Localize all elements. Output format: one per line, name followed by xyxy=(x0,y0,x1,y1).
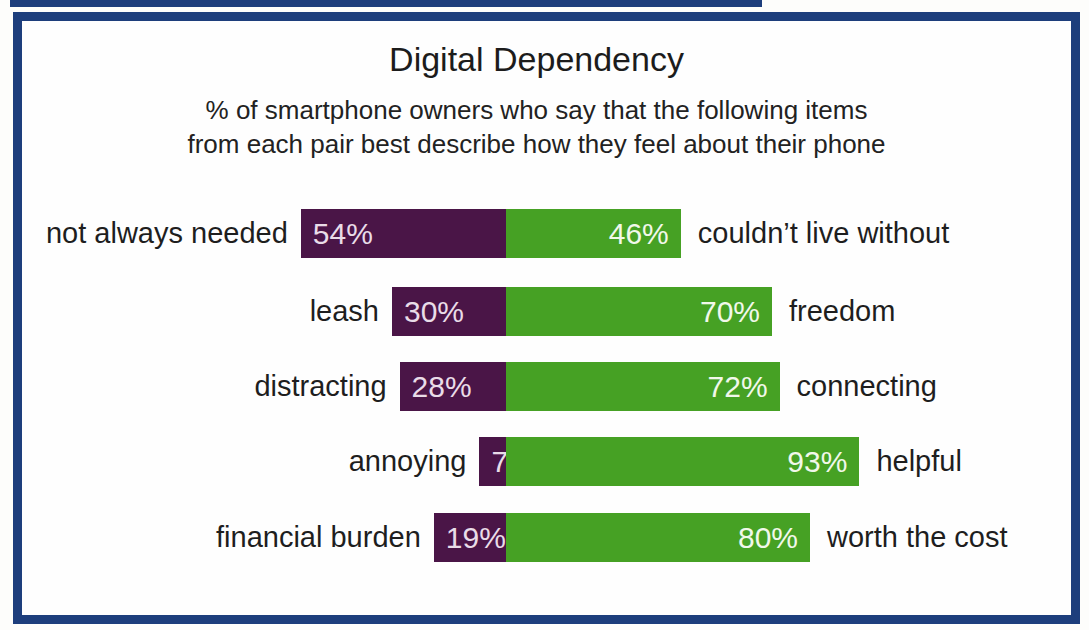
left-bar-segment: 7% xyxy=(479,437,506,486)
right-category-label: connecting xyxy=(797,362,1071,411)
left-bar-segment: 30% xyxy=(392,287,506,336)
left-value-label: 54% xyxy=(301,217,373,251)
right-bar-segment: 72% xyxy=(506,362,780,411)
chart-row: distracting28%72%connecting xyxy=(22,362,1071,411)
right-bar-segment: 46% xyxy=(506,209,681,258)
right-category-label: freedom xyxy=(789,287,1071,336)
right-bar-segment: 70% xyxy=(506,287,772,336)
scan-page: Digital Dependency % of smartphone owner… xyxy=(0,0,1089,630)
right-category-label: worth the cost xyxy=(827,513,1071,562)
right-value-label: 80% xyxy=(738,521,810,555)
left-category-label: leash xyxy=(22,287,379,336)
chart-row: not always needed54%46%couldn’t live wit… xyxy=(22,209,1071,258)
right-value-label: 70% xyxy=(700,295,772,329)
scan-edge-artifact xyxy=(10,0,762,7)
right-bar-segment: 93% xyxy=(506,437,859,486)
right-value-label: 93% xyxy=(787,445,859,479)
left-bar-segment: 28% xyxy=(400,362,506,411)
left-value-label: 28% xyxy=(400,370,472,404)
right-category-label: couldn’t live without xyxy=(698,209,1071,258)
chart-row: financial burden19%80%worth the cost xyxy=(22,513,1071,562)
left-value-label: 19% xyxy=(434,521,506,555)
chart-frame: Digital Dependency % of smartphone owner… xyxy=(13,12,1080,624)
left-category-label: distracting xyxy=(22,362,387,411)
chart-row: annoying7%93%helpful xyxy=(22,437,1071,486)
bar-rows: not always needed54%46%couldn’t live wit… xyxy=(22,21,1071,615)
right-bar-segment: 80% xyxy=(506,513,810,562)
right-category-label: helpful xyxy=(876,437,1071,486)
chart-row: leash30%70%freedom xyxy=(22,287,1071,336)
right-value-label: 46% xyxy=(609,217,681,251)
left-value-label: 30% xyxy=(392,295,464,329)
left-bar-segment: 19% xyxy=(434,513,506,562)
right-value-label: 72% xyxy=(708,370,780,404)
left-category-label: financial burden xyxy=(22,513,421,562)
left-bar-segment: 54% xyxy=(301,209,506,258)
left-category-label: annoying xyxy=(22,437,466,486)
left-category-label: not always needed xyxy=(22,209,288,258)
